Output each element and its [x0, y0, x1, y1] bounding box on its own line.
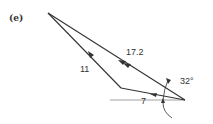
vector-11	[48, 13, 121, 88]
vector-resultant	[48, 13, 185, 100]
vector-11-label: 11	[80, 64, 89, 74]
angle-7-marker	[161, 98, 172, 118]
vector-7-label: 7	[141, 96, 146, 106]
vector-diagram: (e) 17.2 11 7 32°	[0, 0, 213, 124]
resultant-label: 17.2	[126, 47, 144, 57]
angle-32-label: 32°	[180, 76, 194, 86]
part-label: (e)	[9, 13, 23, 23]
arrowhead-icon	[161, 98, 165, 103]
arrowhead-icon	[123, 63, 131, 68]
